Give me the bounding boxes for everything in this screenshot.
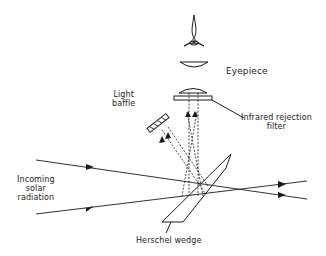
ir-filter-label: Infrared rejection filter: [241, 113, 312, 131]
eyepiece-label: Eyepiece: [226, 67, 268, 76]
reflected-beams: [162, 93, 208, 196]
incoming-radiation-label: Incoming solar radiation: [17, 175, 55, 202]
light-baffle: [147, 114, 169, 133]
ir-rejection-filter: [174, 96, 244, 118]
eye-icon: [184, 15, 204, 46]
eyepiece-lens-upper: [180, 62, 208, 67]
ir-filter-label-line1: Infrared rejection: [241, 113, 312, 122]
incoming-label-line3: radiation: [17, 193, 55, 202]
eyepiece-lens-lower: [179, 89, 207, 94]
light-baffle-label-line2: baffle: [112, 99, 135, 108]
incoming-label-line1: Incoming: [17, 175, 55, 184]
light-baffle-label: Light baffle: [112, 90, 135, 108]
ir-filter-label-line2: filter: [241, 122, 312, 131]
incoming-label-line2: solar: [17, 184, 55, 193]
solar-rays: [36, 160, 307, 214]
herschel-wedge-label: Herschel wedge: [136, 236, 202, 245]
herschel-wedge: [162, 154, 231, 233]
beam-arrows: [159, 111, 198, 143]
light-baffle-label-line1: Light: [112, 90, 135, 99]
